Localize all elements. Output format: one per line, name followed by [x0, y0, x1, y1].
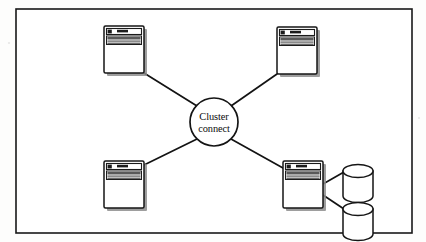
scan-speckle: [8, 42, 10, 44]
diagram-canvas: Cluster connect: [0, 0, 426, 242]
cluster-topology-diagram: Cluster connect: [0, 0, 426, 242]
database-cylinder-upper[interactable]: [343, 165, 373, 203]
server-node-top-left[interactable]: [104, 26, 147, 76]
hub-label-line-2: connect: [198, 123, 230, 134]
scan-speckle: [418, 117, 420, 119]
server-node-top-right[interactable]: [277, 27, 320, 77]
hub-label-line-1: Cluster: [199, 111, 229, 122]
hub-circle: [190, 98, 238, 146]
server-node-bottom-right[interactable]: [283, 161, 326, 211]
server-node-bottom-left[interactable]: [104, 161, 147, 211]
cluster-connect-hub[interactable]: Cluster connect: [190, 98, 238, 146]
database-cylinder-lower[interactable]: [343, 203, 373, 241]
